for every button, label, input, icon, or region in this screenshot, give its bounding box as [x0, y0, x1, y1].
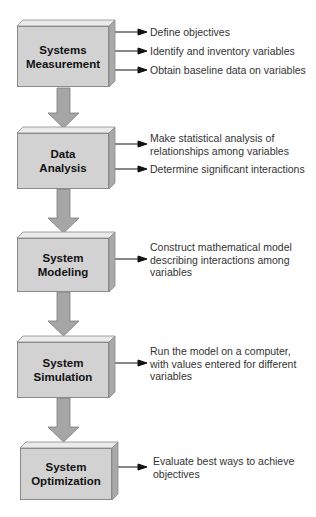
step-title: Systems Measurement: [26, 43, 100, 71]
output-label: Identify and inventory variables: [150, 45, 295, 58]
right-arrow-icon: [138, 29, 147, 35]
output-label: Construct mathematical model describing …: [150, 241, 292, 279]
output-label: Determine significant interactions: [150, 163, 305, 176]
step-title: System Optimization: [31, 460, 101, 488]
step-title: Data Analysis: [39, 147, 86, 175]
right-arrow-icon: [138, 166, 147, 172]
step-title: System Simulation: [34, 356, 93, 384]
output-label: Evaluate best ways to achieve objectives: [153, 455, 294, 480]
output-label: Make statistical analysis of relationshi…: [150, 132, 289, 157]
down-arrow-icon: [48, 88, 79, 128]
right-arrow-icon: [138, 67, 147, 73]
output-label: Define objectives: [150, 26, 230, 39]
output-label: Run the model on a computer, with values…: [150, 345, 296, 383]
right-arrow-icon: [138, 464, 147, 470]
right-arrow-icon: [138, 360, 147, 366]
right-arrow-icon: [138, 48, 147, 54]
output-label: Obtain baseline data on variables: [150, 64, 306, 77]
right-arrow-icon: [138, 141, 147, 147]
step-title: System Modeling: [38, 251, 88, 279]
flowchart: Systems Measurement Define objectives Id…: [0, 0, 316, 517]
right-arrow-icon: [138, 256, 147, 262]
